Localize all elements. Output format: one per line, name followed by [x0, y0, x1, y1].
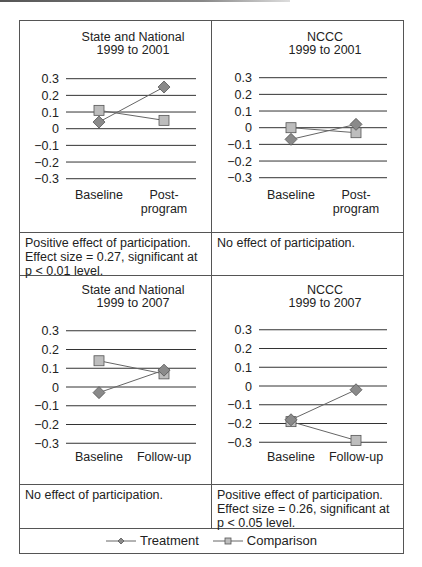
y-tick-label: −0.1: [227, 398, 252, 412]
x-category-label: Post-: [341, 188, 370, 202]
series-line-comparison: [291, 422, 356, 441]
y-tick-label: 0.2: [42, 89, 59, 103]
legend-label: Comparison: [247, 533, 317, 548]
y-tick-label: −0.3: [227, 171, 252, 185]
x-category-label: program: [333, 202, 380, 216]
note-line: Positive effect of participation.: [217, 488, 408, 502]
y-tick-label: 0: [245, 121, 252, 135]
panel-nccc-2001: NCCC1999 to 20010.30.20.10−0.1−0.2−0.3Ba…: [212, 21, 403, 232]
note-state-national-2001: Positive effect of participation. Effect…: [20, 233, 216, 278]
chart-title: 1999 to 2007: [97, 296, 170, 310]
diamond-marker-icon: [106, 536, 136, 546]
series-line-comparison: [99, 361, 164, 374]
legend-item-comparison: Comparison: [213, 533, 317, 548]
series-line-treatment: [99, 370, 164, 393]
y-tick-label: −0.3: [34, 437, 59, 451]
diamond-marker-icon: [93, 116, 105, 128]
chart-state-national-1999-2007: State and National1999 to 20070.30.20.10…: [20, 276, 211, 484]
y-tick-label: 0: [52, 381, 59, 395]
chart-title: NCCC: [307, 283, 343, 297]
note-line: No effect of participation.: [217, 236, 408, 250]
chart-nccc-1999-2001: NCCC1999 to 20010.30.20.10−0.1−0.2−0.3Ba…: [212, 21, 403, 232]
note-line: Positive effect of participation.: [25, 236, 216, 250]
chart-title: 1999 to 2007: [289, 296, 362, 310]
panel-state-national-2001: State and National1999 to 20010.30.20.10…: [20, 21, 211, 232]
top-rule: [0, 0, 290, 2]
y-tick-label: −0.2: [34, 156, 59, 170]
y-tick-label: −0.2: [34, 418, 59, 432]
diamond-marker-icon: [285, 133, 297, 145]
figure-table: State and National1999 to 20010.30.20.10…: [19, 20, 404, 554]
square-marker-icon: [94, 356, 104, 366]
legend-label: Treatment: [140, 533, 199, 548]
y-tick-label: 0.2: [235, 342, 252, 356]
note-nccc-2001: No effect of participation.: [212, 233, 408, 278]
y-tick-label: 0.3: [235, 323, 252, 337]
legend: Treatment Comparison: [20, 528, 403, 553]
chart-state-national-1999-2001: State and National1999 to 20010.30.20.10…: [20, 21, 211, 232]
y-tick-label: 0.2: [42, 343, 59, 357]
legend-item-treatment: Treatment: [106, 533, 199, 548]
x-category-label: Baseline: [75, 188, 123, 202]
chart-nccc-1999-2007: NCCC1999 to 20070.30.20.10−0.1−0.2−0.3Ba…: [212, 276, 403, 484]
x-category-label: Follow-up: [329, 450, 383, 464]
chart-title: 1999 to 2001: [97, 43, 170, 57]
note-state-national-2007: No effect of participation.: [20, 485, 216, 531]
series-line-treatment: [99, 87, 164, 122]
square-marker-icon: [159, 115, 169, 125]
y-tick-label: −0.3: [227, 436, 252, 450]
square-marker-icon: [286, 123, 296, 133]
diamond-marker-icon: [158, 81, 170, 93]
y-tick-label: 0.1: [235, 361, 252, 375]
y-tick-label: 0.1: [235, 105, 252, 119]
y-tick-label: 0: [245, 380, 252, 394]
panel-nccc-2007: NCCC1999 to 20070.30.20.10−0.1−0.2−0.3Ba…: [212, 276, 403, 484]
panel-state-national-2007: State and National1999 to 20070.30.20.10…: [20, 276, 211, 484]
y-tick-label: 0.1: [42, 362, 59, 376]
y-tick-label: −0.1: [227, 138, 252, 152]
square-marker-icon: [94, 105, 104, 115]
square-marker-icon: [351, 435, 361, 445]
y-tick-label: 0.3: [42, 72, 59, 86]
y-tick-label: −0.1: [34, 399, 59, 413]
square-marker-icon: [213, 536, 243, 546]
x-category-label: Baseline: [267, 188, 315, 202]
chart-title: State and National: [82, 30, 185, 44]
x-category-label: Post-: [149, 188, 178, 202]
y-tick-label: 0.1: [42, 106, 59, 120]
y-tick-label: 0.2: [235, 88, 252, 102]
note-line: p < 0.01 level.: [25, 264, 216, 278]
y-tick-label: 0.3: [42, 324, 59, 338]
x-category-label: Baseline: [75, 450, 123, 464]
chart-title: NCCC: [307, 30, 343, 44]
diamond-marker-icon: [93, 387, 105, 399]
note-line: Effect size = 0.27, significant at: [25, 250, 216, 264]
chart-title: State and National: [82, 283, 185, 297]
note-line: No effect of participation.: [25, 488, 216, 502]
y-tick-label: −0.2: [227, 417, 252, 431]
y-tick-label: −0.3: [34, 172, 59, 186]
x-category-label: Baseline: [267, 450, 315, 464]
y-tick-label: −0.2: [227, 155, 252, 169]
note-line: Effect size = 0.26, significant at: [217, 502, 408, 516]
note-nccc-2007: Positive effect of participation. Effect…: [212, 485, 408, 531]
chart-title: 1999 to 2001: [289, 43, 362, 57]
y-tick-label: −0.1: [34, 139, 59, 153]
x-category-label: Follow-up: [137, 450, 191, 464]
x-category-label: program: [141, 202, 188, 216]
y-tick-label: 0: [52, 122, 59, 136]
y-tick-label: 0.3: [235, 71, 252, 85]
